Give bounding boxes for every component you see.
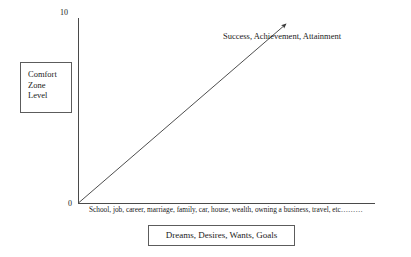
comfort-zone-level-box: Comfort Zone Level [20, 62, 72, 113]
success-annotation-label: Success, Achievement, Attainment [223, 31, 341, 41]
dreams-goals-label: Dreams, Desires, Wants, Goals [166, 230, 278, 241]
y-axis-line [78, 18, 79, 204]
y-axis-max-tick-label: 10 [60, 8, 68, 17]
x-axis-caption-label: School, job, career, marriage, family, c… [89, 205, 363, 214]
comfort-zone-line-1: Comfort [28, 69, 71, 80]
comfort-zone-line-2: Zone [28, 80, 71, 91]
x-axis-line [78, 203, 375, 204]
growth-arrow-icon [0, 0, 411, 257]
figure-canvas: 10 0 Comfort Zone Level Success, Achieve… [0, 0, 411, 257]
origin-tick-label: 0 [68, 199, 72, 208]
dreams-goals-box: Dreams, Desires, Wants, Goals [148, 225, 295, 246]
comfort-zone-line-3: Level [28, 90, 71, 101]
